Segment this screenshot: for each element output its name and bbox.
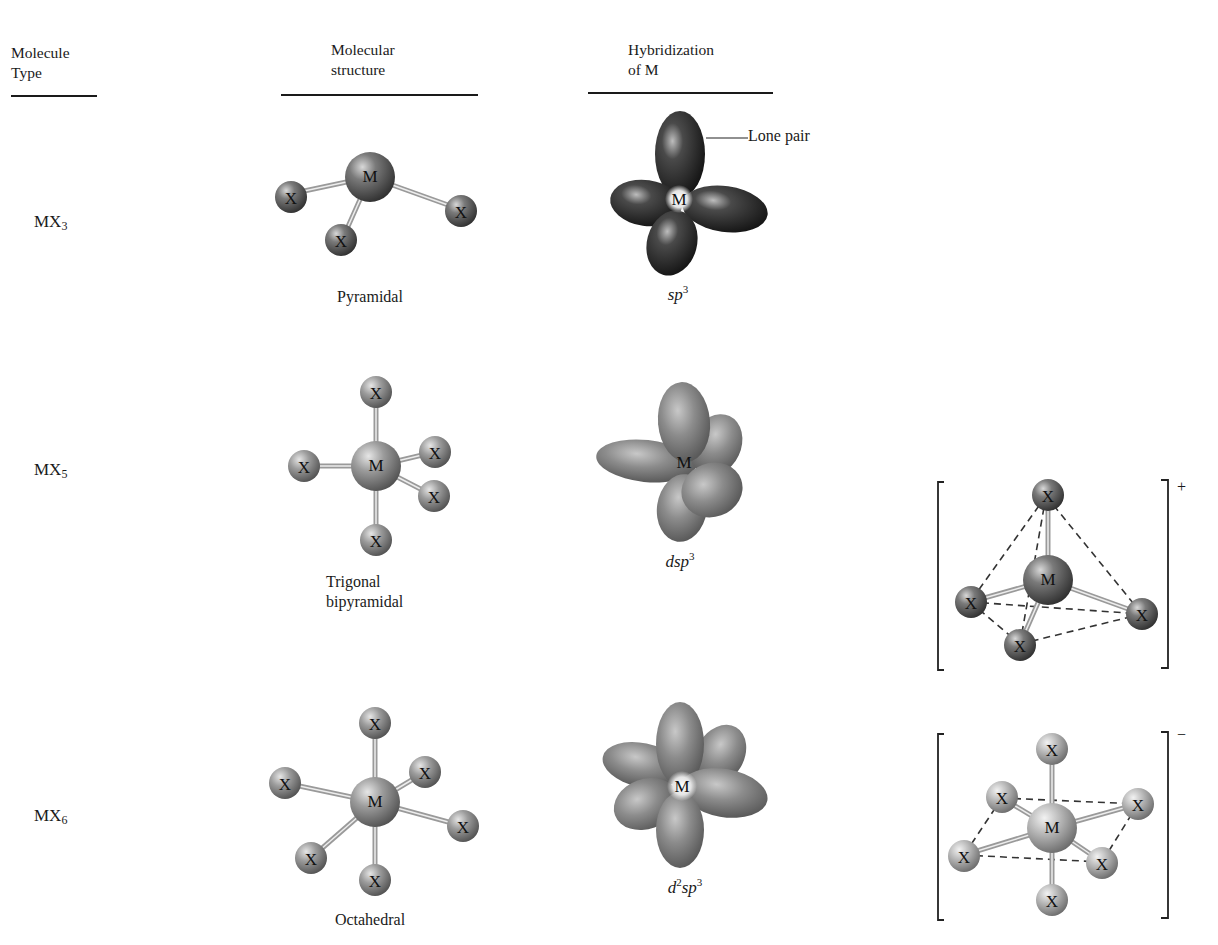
caption-line: Trigonal bbox=[326, 572, 403, 592]
svg-text:X: X bbox=[369, 715, 381, 734]
octahedral-molecule: M X X X X X X bbox=[265, 705, 490, 895]
header-line: Molecular bbox=[331, 40, 395, 60]
caption-line: bipyramidal bbox=[326, 592, 403, 612]
left-bracket bbox=[938, 482, 944, 670]
structure-caption-trigonal-bipyramidal: Trigonal bipyramidal bbox=[326, 572, 403, 612]
svg-text:X: X bbox=[305, 850, 317, 869]
svg-text:X: X bbox=[370, 532, 382, 551]
formula-base: MX bbox=[34, 806, 61, 825]
hybridization-sp3: sp3 bbox=[648, 285, 708, 305]
svg-text:X: X bbox=[1136, 606, 1148, 625]
hyb-text: sp bbox=[682, 878, 697, 897]
formula-base: MX bbox=[34, 212, 61, 231]
header-line: Molecule bbox=[11, 43, 70, 63]
trigonal-bipyramidal-molecule: M X X X X X bbox=[280, 370, 480, 560]
svg-text:X: X bbox=[1042, 487, 1054, 506]
svg-text:M: M bbox=[1040, 570, 1055, 589]
svg-text:M: M bbox=[367, 792, 382, 811]
header-hybridization: Hybridization of M bbox=[628, 40, 714, 80]
header-line: of M bbox=[628, 60, 714, 80]
svg-text:M: M bbox=[362, 167, 377, 186]
tetrahedral-ion-diagram: M X X X X bbox=[936, 478, 1176, 678]
d2sp3-orbital-diagram: M bbox=[602, 700, 772, 870]
formula-base: MX bbox=[34, 460, 61, 479]
lone-pair-label: Lone pair bbox=[748, 127, 810, 145]
formula-subscript: 6 bbox=[61, 813, 67, 827]
caption-line: Octahedral bbox=[310, 910, 430, 930]
svg-text:X: X bbox=[1014, 637, 1026, 656]
svg-text:X: X bbox=[419, 764, 431, 783]
ion-charge-minus: − bbox=[1177, 726, 1186, 744]
header-line: structure bbox=[331, 60, 395, 80]
svg-text:X: X bbox=[455, 203, 467, 222]
header-molecule-type: Molecule Type bbox=[11, 43, 70, 83]
svg-text:X: X bbox=[285, 189, 297, 208]
structure-caption-pyramidal: Pyramidal bbox=[310, 287, 430, 307]
ion-charge-plus: + bbox=[1177, 478, 1186, 496]
svg-text:M: M bbox=[1044, 818, 1059, 837]
svg-text:M: M bbox=[671, 190, 686, 209]
row-label-mx6: MX6 bbox=[34, 806, 67, 826]
hybridization-dsp3: dsp3 bbox=[645, 552, 715, 572]
hybridization-d2sp3: d2sp3 bbox=[645, 878, 725, 898]
header-line: Hybridization bbox=[628, 40, 714, 60]
svg-text:X: X bbox=[279, 775, 291, 794]
left-bracket bbox=[938, 734, 944, 920]
hyb-superscript: 3 bbox=[697, 876, 703, 888]
structure-caption-octahedral: Octahedral bbox=[310, 910, 430, 930]
svg-text:X: X bbox=[1046, 892, 1058, 911]
svg-text:X: X bbox=[1132, 796, 1144, 815]
svg-text:X: X bbox=[457, 818, 469, 837]
hyb-superscript: 3 bbox=[683, 283, 689, 295]
svg-text:X: X bbox=[335, 232, 347, 251]
hyb-superscript: 3 bbox=[689, 550, 695, 562]
svg-text:X: X bbox=[1046, 741, 1058, 760]
svg-text:X: X bbox=[996, 789, 1008, 808]
caption-line: Pyramidal bbox=[310, 287, 430, 307]
header-line: Type bbox=[11, 63, 70, 83]
header-rule bbox=[281, 94, 478, 96]
hyb-text: dsp bbox=[665, 552, 689, 571]
svg-text:X: X bbox=[965, 594, 977, 613]
svg-text:X: X bbox=[1096, 855, 1108, 874]
svg-text:X: X bbox=[958, 848, 970, 867]
row-label-mx3: MX3 bbox=[34, 212, 67, 232]
pyramidal-molecule: M X X X bbox=[260, 150, 490, 260]
header-molecular-structure: Molecular structure bbox=[331, 40, 395, 80]
right-bracket bbox=[1161, 732, 1168, 918]
right-bracket bbox=[1161, 480, 1168, 668]
hyb-text: d bbox=[668, 878, 677, 897]
svg-text:M: M bbox=[674, 777, 689, 796]
header-rule bbox=[588, 92, 773, 94]
hyb-text: sp bbox=[668, 285, 683, 304]
header-rule bbox=[11, 95, 97, 97]
svg-text:X: X bbox=[369, 872, 381, 891]
octahedral-ion-diagram: M X X X X X X bbox=[936, 730, 1176, 925]
svg-text:M: M bbox=[676, 453, 691, 472]
row-label-mx5: MX5 bbox=[34, 460, 67, 480]
svg-text:X: X bbox=[429, 444, 441, 463]
svg-text:X: X bbox=[428, 488, 440, 507]
formula-subscript: 5 bbox=[61, 467, 67, 481]
svg-text:X: X bbox=[298, 458, 310, 477]
dsp3-orbital-diagram: M bbox=[598, 378, 758, 538]
formula-subscript: 3 bbox=[61, 219, 67, 233]
svg-text:X: X bbox=[370, 384, 382, 403]
svg-text:M: M bbox=[368, 456, 383, 475]
